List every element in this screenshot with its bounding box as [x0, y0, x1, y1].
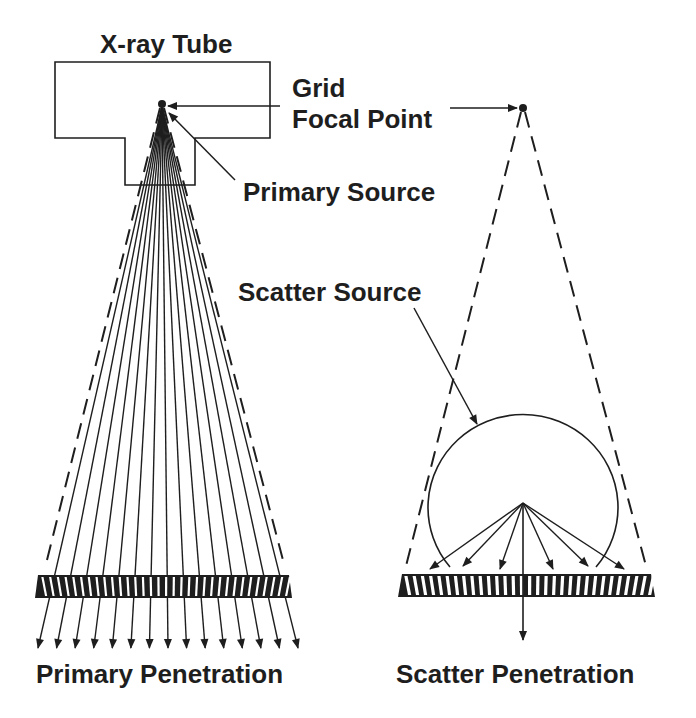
- scatter-ray-arrow: [500, 503, 523, 569]
- left-beam-boundary-dashed-right: [164, 108, 283, 560]
- scatter-penetration-label: Scatter Penetration: [396, 659, 634, 689]
- xray-grid-diagram: X-ray Tube Grid Focal Point Primary Sour…: [0, 0, 696, 718]
- grid-focal-label-line2: Focal Point: [292, 104, 432, 134]
- scatter-ray-arrow: [430, 503, 523, 569]
- primary-ray-arrow: [38, 106, 162, 648]
- scatter-grid: [398, 574, 655, 597]
- primary-ray-arrow: [112, 106, 162, 648]
- scatter-ray-arrow: [523, 503, 588, 566]
- grid-focal-label-line1: Grid: [292, 73, 345, 103]
- primary-ray-arrow: [75, 106, 162, 648]
- primary-grid: [35, 575, 292, 598]
- scatter-source-label: Scatter Source: [238, 277, 422, 307]
- right-beam-boundary-dashed-right: [525, 112, 646, 566]
- primary-focal-spot: [158, 100, 166, 108]
- grid-focal-spot: [519, 104, 527, 112]
- xray-tube-label: X-ray Tube: [100, 29, 232, 59]
- primary-penetration-label: Primary Penetration: [36, 659, 283, 689]
- scatter-arrows: [430, 503, 624, 569]
- left-beam-boundary-dashed: [47, 108, 160, 560]
- primary-source-label: Primary Source: [243, 177, 435, 207]
- scatter-ray-arrow: [463, 503, 523, 566]
- primary-source-arrow: [169, 113, 235, 180]
- primary-ray-arrow: [162, 106, 224, 648]
